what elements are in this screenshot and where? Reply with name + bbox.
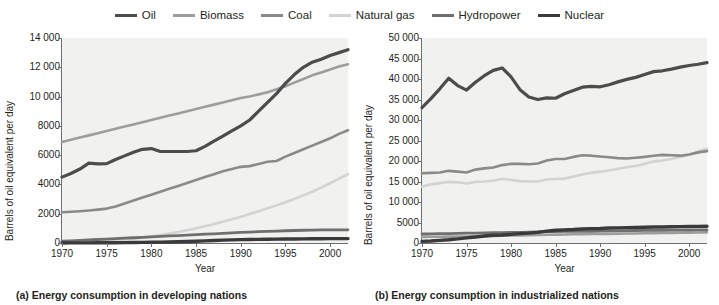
x-tick-label: 1985 <box>544 249 566 259</box>
y-tick-mark <box>58 38 62 39</box>
panel-b-x-axis-line <box>421 243 707 244</box>
legend-label: Nuclear <box>565 10 605 21</box>
y-tick-label: 2000 <box>38 209 60 219</box>
y-tick-mark <box>418 100 422 101</box>
y-tick-label: 50 000 <box>388 33 419 43</box>
x-tick-label: 1970 <box>51 249 73 259</box>
figure-energy-consumption: OilBiomassCoalNatural gasHydropowerNucle… <box>0 0 719 305</box>
y-tick-mark <box>58 97 62 98</box>
y-tick-mark <box>418 202 422 203</box>
legend-label: Natural gas <box>356 10 415 21</box>
caption-panel-b: (b) Energy consumption in industrialized… <box>375 289 619 301</box>
y-tick-label: 15 000 <box>388 177 419 187</box>
x-tick-mark <box>645 243 646 247</box>
x-tick-label: 1980 <box>140 249 162 259</box>
x-tick-label: 1995 <box>634 249 656 259</box>
y-tick-mark <box>418 141 422 142</box>
x-tick-label: 1995 <box>274 249 296 259</box>
legend-label: Biomass <box>200 10 244 21</box>
x-tick-label: 1990 <box>230 249 252 259</box>
y-tick-label: 25 000 <box>388 136 419 146</box>
legend-item-hydropower: Hydropower <box>432 10 521 21</box>
x-tick-label: 1980 <box>500 249 522 259</box>
x-tick-mark <box>689 243 690 247</box>
legend-swatch-icon <box>173 14 195 17</box>
caption-panel-a: (a) Energy consumption in developing nat… <box>16 289 247 301</box>
x-tick-mark <box>62 243 63 247</box>
legend-swatch-icon <box>115 14 137 17</box>
y-tick-mark <box>58 214 62 215</box>
y-tick-mark <box>418 59 422 60</box>
x-tick-label: 2000 <box>319 249 341 259</box>
panel-a-series-lines <box>62 38 348 243</box>
panel-b-series-lines <box>422 38 707 243</box>
x-tick-mark <box>241 243 242 247</box>
legend-item-coal: Coal <box>261 10 312 21</box>
x-tick-mark <box>151 243 152 247</box>
panel-a-y-tick-labels: 0200040006000800010 00012 00014 000 <box>16 34 60 302</box>
x-tick-mark <box>285 243 286 247</box>
x-tick-label: 1990 <box>589 249 611 259</box>
x-tick-label: 1975 <box>96 249 118 259</box>
y-tick-mark <box>418 223 422 224</box>
y-tick-label: 5000 <box>397 218 419 228</box>
x-tick-label: 2000 <box>678 249 700 259</box>
y-tick-mark <box>58 155 62 156</box>
x-tick-mark <box>467 243 468 247</box>
series-line-oil <box>422 63 707 108</box>
legend-label: Oil <box>142 10 156 21</box>
legend-swatch-icon <box>329 14 351 17</box>
y-tick-label: 35 000 <box>388 95 419 105</box>
panel-b-x-tick-labels: 1970197519801985199019952000 <box>422 249 707 261</box>
x-tick-mark <box>556 243 557 247</box>
series-line-biomass <box>62 64 348 142</box>
legend-label: Hydropower <box>459 10 521 21</box>
series-line-coal <box>62 130 348 212</box>
legend-label: Coal <box>288 10 312 21</box>
y-tick-mark <box>418 120 422 121</box>
panel-a-y-axis-label: Barrels of oil equivalent per day <box>4 96 16 246</box>
x-tick-label: 1985 <box>185 249 207 259</box>
y-tick-label: 4000 <box>38 179 60 189</box>
y-tick-label: 10 000 <box>29 92 60 102</box>
y-tick-label: 10 000 <box>388 197 419 207</box>
legend-swatch-icon <box>538 14 560 17</box>
y-tick-mark <box>418 79 422 80</box>
x-tick-label: 1970 <box>411 249 433 259</box>
panel-developing-nations: Barrels of oil equivalent per day 020004… <box>0 34 360 302</box>
y-tick-label: 20 000 <box>388 156 419 166</box>
series-line-coal <box>422 151 707 173</box>
legend-swatch-icon <box>261 14 283 17</box>
x-tick-mark <box>511 243 512 247</box>
y-tick-mark <box>58 126 62 127</box>
legend-swatch-icon <box>432 14 454 17</box>
y-tick-label: 30 000 <box>388 115 419 125</box>
legend-item-oil: Oil <box>115 10 156 21</box>
panel-a-plot-area: 1970197519801985199019952000 Year <box>62 38 348 243</box>
y-tick-label: 14 000 <box>29 33 60 43</box>
panel-b-plot-area: 1970197519801985199019952000 Year <box>422 38 707 243</box>
y-tick-mark <box>418 38 422 39</box>
y-tick-label: 12 000 <box>29 62 60 72</box>
legend-item-nuclear: Nuclear <box>538 10 605 21</box>
panel-b-x-axis-label: Year <box>422 263 707 274</box>
y-tick-label: 45 000 <box>388 54 419 64</box>
panel-b-y-tick-labels: 0500010 00015 00020 00025 00030 00035 00… <box>371 34 419 302</box>
y-tick-label: 40 000 <box>388 74 419 84</box>
legend-item-natural-gas: Natural gas <box>329 10 415 21</box>
y-tick-mark <box>58 184 62 185</box>
x-tick-mark <box>196 243 197 247</box>
legend-item-biomass: Biomass <box>173 10 244 21</box>
x-tick-mark <box>107 243 108 247</box>
series-line-oil <box>62 50 348 177</box>
panel-industrialized-nations: Barrels of oil equivalent per day 050001… <box>359 34 719 302</box>
x-tick-mark <box>422 243 423 247</box>
panel-a-x-axis-label: Year <box>62 263 348 274</box>
chart-legend: OilBiomassCoalNatural gasHydropowerNucle… <box>0 10 719 21</box>
y-tick-label: 8000 <box>38 121 60 131</box>
y-tick-mark <box>418 161 422 162</box>
panel-a-x-tick-labels: 1970197519801985199019952000 <box>62 249 348 261</box>
y-tick-label: 6000 <box>38 150 60 160</box>
x-tick-mark <box>330 243 331 247</box>
y-tick-mark <box>58 67 62 68</box>
